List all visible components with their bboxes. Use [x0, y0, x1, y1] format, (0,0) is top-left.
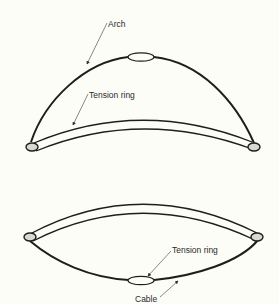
tension-ring-leader-line	[73, 94, 88, 125]
cable-right-support	[251, 233, 263, 241]
cable-structure	[24, 204, 263, 297]
arch-crown-ring	[128, 53, 154, 61]
cable-curve-left	[30, 241, 129, 280]
arch-right-support	[248, 143, 260, 151]
bottom-ring-band-top-edge	[30, 204, 257, 234]
cable-leader-line	[160, 281, 178, 297]
cable-center-ring	[128, 276, 154, 284]
structure-drawing	[0, 0, 279, 304]
cable-left-support	[24, 233, 36, 241]
tension-ring-band-bottom-edge	[36, 129, 252, 151]
arch-label: Arch	[108, 20, 125, 29]
arch-leader-line	[87, 23, 107, 64]
tension-ring-label-bottom: Tension ring	[172, 246, 218, 255]
arch-structure	[26, 23, 260, 151]
tension-ring-label-top: Tension ring	[89, 91, 135, 100]
cable-label: Cable	[135, 295, 157, 304]
arch-left-support	[26, 143, 38, 151]
diagram-canvas: Arch Tension ring Tension ring Cable	[0, 0, 279, 304]
bottom-tension-ring-leader-line	[148, 251, 171, 276]
